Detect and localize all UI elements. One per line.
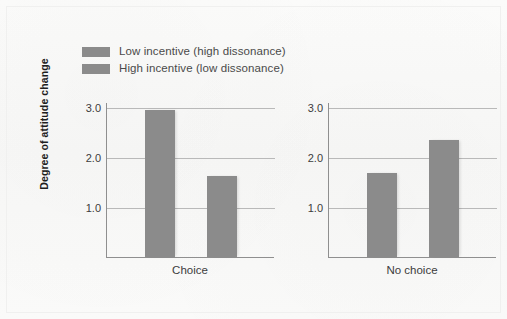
gridline-3: 3.0 [329, 108, 497, 109]
bar-choice-low-incentive [145, 110, 175, 258]
legend-swatch-low-incentive [82, 47, 110, 57]
y-axis-title: Degree of attitude change [38, 44, 50, 204]
chart-figure: Low incentive (high dissonance) High inc… [0, 0, 507, 319]
y-tick-3: 3.0 [308, 102, 323, 114]
legend-item-high-incentive: High incentive (low dissonance) [82, 61, 342, 76]
gridline-3: 3.0 [107, 108, 275, 109]
gridline-1: 1.0 [107, 208, 275, 209]
legend-swatch-high-incentive [82, 64, 110, 74]
plot-area-choice: 3.0 2.0 1.0 [106, 103, 274, 258]
legend-label-low-incentive: Low incentive (high dissonance) [119, 45, 286, 58]
bar-no-choice-high-incentive [429, 140, 459, 257]
bar-choice-high-incentive [207, 176, 237, 257]
y-tick-1: 1.0 [86, 202, 101, 214]
x-label-choice: Choice [106, 264, 274, 276]
y-tick-1: 1.0 [308, 202, 323, 214]
x-label-no-choice: No choice [328, 264, 496, 276]
gridline-1: 1.0 [329, 208, 497, 209]
legend-label-high-incentive: High incentive (low dissonance) [119, 62, 284, 75]
y-tick-2: 2.0 [308, 152, 323, 164]
gridline-2: 2.0 [107, 158, 275, 159]
y-tick-3: 3.0 [86, 102, 101, 114]
bar-no-choice-low-incentive [367, 173, 397, 257]
y-tick-2: 2.0 [86, 152, 101, 164]
gridline-2: 2.0 [329, 158, 497, 159]
chart-legend: Low incentive (high dissonance) High inc… [82, 44, 342, 78]
plot-area-no-choice: 3.0 2.0 1.0 [328, 103, 496, 258]
legend-item-low-incentive: Low incentive (high dissonance) [82, 44, 342, 59]
